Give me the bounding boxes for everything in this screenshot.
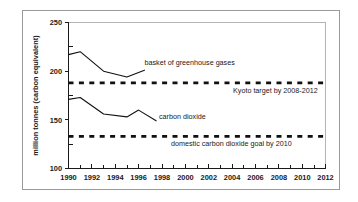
y-axis-ticks xyxy=(65,23,69,169)
y-axis-minor-ticks xyxy=(69,47,73,144)
x-tick-label-2012: 2012 xyxy=(317,173,333,182)
x-tick-label-2010: 2010 xyxy=(294,173,310,182)
y-axis-title: million tonnes (carbon equivalent) xyxy=(31,35,40,156)
x-tick-label-2000: 2000 xyxy=(177,173,193,182)
x-tick-label-1994: 1994 xyxy=(107,173,124,182)
x-tick-label-1996: 1996 xyxy=(130,173,146,182)
x-tick-label-2008: 2008 xyxy=(271,173,287,182)
series-line-greenhouse-gases xyxy=(69,52,145,77)
x-tick-label-2002: 2002 xyxy=(201,173,217,182)
x-tick-label-1992: 1992 xyxy=(84,173,100,182)
series-line-carbon-dioxide xyxy=(69,97,157,120)
x-tick-label-1998: 1998 xyxy=(154,173,170,182)
x-tick-label-2006: 2006 xyxy=(247,173,263,182)
x-tick-label-1990: 1990 xyxy=(60,173,76,182)
chart-svg: 250 200 150 100 million tonnes (carbon e… xyxy=(0,0,358,202)
x-tick-label-2004: 2004 xyxy=(224,173,241,182)
annotation-domestic-goal: domestic carbon dioxide goal by 2010 xyxy=(171,139,292,148)
y-tick-label-100: 100 xyxy=(50,164,62,173)
y-tick-label-250: 250 xyxy=(50,18,62,27)
line-chart: 250 200 150 100 million tonnes (carbon e… xyxy=(0,0,358,202)
annotation-basket-of-greenhouse-gases: basket of greenhouse gases xyxy=(145,58,236,67)
y-tick-label-200: 200 xyxy=(50,67,62,76)
annotation-carbon-dioxide: carbon dioxide xyxy=(159,112,206,121)
y-tick-label-150: 150 xyxy=(50,116,62,125)
annotation-kyoto-target: Kyoto target by 2008-2012 xyxy=(233,86,318,95)
